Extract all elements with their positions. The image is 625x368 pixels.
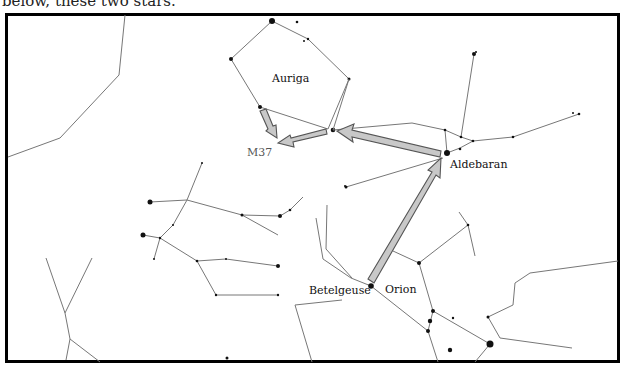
arrow-auriga-to-m37 bbox=[260, 109, 277, 138]
star-chart: Auriga M37 Aldebaran Betelgeuse Orion bbox=[0, 0, 625, 368]
label-m37: M37 bbox=[247, 146, 272, 159]
arrow-aldebaran-to-elnath bbox=[337, 124, 441, 157]
label-betelgeuse: Betelgeuse bbox=[309, 284, 371, 297]
label-orion: Orion bbox=[385, 283, 417, 296]
label-aldebaran: Aldebaran bbox=[449, 158, 508, 171]
constellation-line-right bbox=[488, 261, 618, 348]
label-auriga: Auriga bbox=[271, 72, 310, 85]
constellation-line-lower-left bbox=[46, 258, 70, 360]
pointer-arrows bbox=[260, 109, 441, 283]
arrow-elnath-to-m37 bbox=[278, 129, 327, 147]
gemini-constellation bbox=[141, 162, 347, 360]
constellation-line-upper-left bbox=[8, 15, 125, 157]
